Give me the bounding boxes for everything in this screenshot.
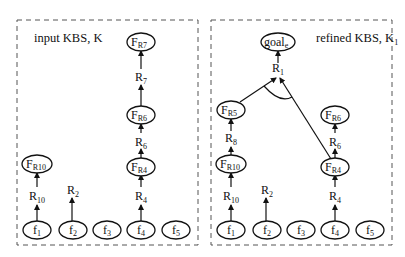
node-FR10: FR10 bbox=[216, 155, 246, 173]
panel-border bbox=[211, 20, 392, 245]
node-FR4: FR4 bbox=[321, 158, 349, 176]
fact-f3: f3 bbox=[93, 221, 121, 239]
rule-R4: R4 bbox=[329, 189, 341, 205]
svg-text:R8: R8 bbox=[225, 131, 237, 147]
rule-R6: R6 bbox=[329, 135, 341, 151]
svg-text:R10: R10 bbox=[223, 189, 239, 205]
fact-f2: f2 bbox=[59, 221, 87, 239]
rule-R1: R1 bbox=[272, 61, 284, 77]
panel-border bbox=[17, 20, 198, 245]
node-FR6: FR6 bbox=[127, 106, 155, 124]
svg-text:R6: R6 bbox=[329, 135, 341, 151]
node-FR6: FR6 bbox=[321, 106, 349, 124]
edge-FR5-R1 bbox=[240, 78, 276, 102]
node-FR4: FR4 bbox=[127, 158, 155, 176]
svg-text:R2: R2 bbox=[67, 183, 79, 199]
panel-title: input KBS, K bbox=[34, 31, 102, 45]
node-FR5: FR5 bbox=[217, 101, 245, 119]
fact-f1: f1 bbox=[23, 221, 51, 239]
input-kbs-panel: input KBS, K FR7 R7 FR6 R6 FR4 bbox=[17, 20, 198, 245]
rule-R7: R7 bbox=[135, 70, 147, 86]
refined-kbs-panel: refined KBS, K1 goale R1 FR5 R8 bbox=[211, 20, 398, 245]
rule-R6: R6 bbox=[135, 135, 147, 151]
svg-text:R7: R7 bbox=[135, 70, 147, 86]
svg-text:R1: R1 bbox=[272, 61, 284, 77]
kbs-refinement-diagram: input KBS, K FR7 R7 FR6 R6 FR4 bbox=[0, 0, 405, 257]
rule-R2: R2 bbox=[67, 183, 79, 199]
svg-text:R4: R4 bbox=[329, 189, 341, 205]
svg-text:R10: R10 bbox=[29, 189, 45, 205]
fact-f3: f3 bbox=[287, 221, 315, 239]
fact-f4: f4 bbox=[321, 221, 349, 239]
and-arc bbox=[264, 86, 292, 99]
fact-f5: f5 bbox=[162, 221, 190, 239]
node-goal: goale bbox=[261, 33, 295, 51]
svg-text:R6: R6 bbox=[135, 135, 147, 151]
svg-text:R4: R4 bbox=[135, 189, 147, 205]
fact-f4: f4 bbox=[127, 221, 155, 239]
fact-f2: f2 bbox=[253, 221, 281, 239]
node-FR7: FR7 bbox=[127, 33, 155, 51]
rule-R4: R4 bbox=[135, 189, 147, 205]
node-FR10: FR10 bbox=[22, 155, 52, 173]
svg-text:R2: R2 bbox=[261, 183, 273, 199]
fact-f5: f5 bbox=[356, 221, 384, 239]
fact-f1: f1 bbox=[217, 221, 245, 239]
rule-R10: R10 bbox=[223, 189, 239, 205]
rule-R10: R10 bbox=[29, 189, 45, 205]
panel-title: refined KBS, K1 bbox=[316, 31, 398, 47]
rule-R8: R8 bbox=[225, 131, 237, 147]
rule-R2: R2 bbox=[261, 183, 273, 199]
